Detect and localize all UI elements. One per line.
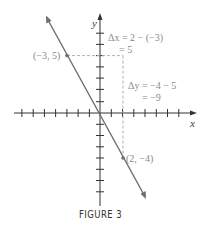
point-p1-label: (−3, 5) <box>33 51 60 61</box>
y-axis-label: y <box>92 18 97 29</box>
point-p2 <box>121 156 125 160</box>
x-axis-arrow-icon <box>190 111 197 116</box>
y-axis-arrow-icon <box>98 13 103 20</box>
point-p1 <box>65 54 69 58</box>
figure-3: y x (−3, 5) (2, −4) Δx = 2 − (−3) = 5 Δy… <box>0 0 201 226</box>
coordinate-plane <box>0 0 201 226</box>
delta-y-formula: Δy = −4 − 5 <box>128 81 176 91</box>
delta-x-formula: Δx = 2 − (−3) <box>108 33 163 43</box>
point-p2-label: (2, −4) <box>126 154 153 164</box>
delta-x-result: = 5 <box>119 45 132 55</box>
figure-caption: FIGURE 3 <box>15 209 186 220</box>
x-axis-label: x <box>190 118 195 129</box>
delta-y-result: = −9 <box>142 93 161 103</box>
